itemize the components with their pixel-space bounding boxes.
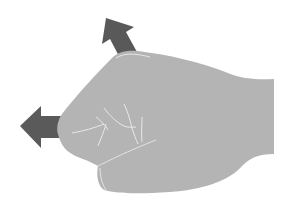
fist-shape — [57, 51, 274, 194]
fist-illustration — [0, 0, 289, 210]
illustration-canvas: Closed fist with arrows indicating upwar… — [0, 0, 289, 210]
hand-icon — [57, 51, 274, 194]
